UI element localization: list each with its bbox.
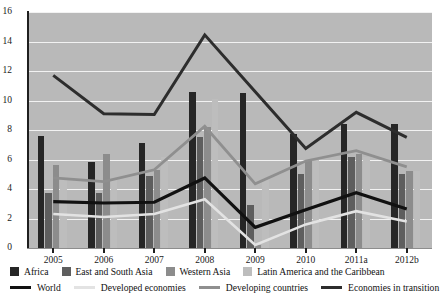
y-axis-tick-label: 4: [0, 189, 12, 199]
y-axis-tick-label: 2: [0, 219, 12, 229]
x-axis-tick-mark: [204, 248, 206, 253]
line-economies-in-transition: [53, 35, 407, 149]
x-axis-tick-label-2008: 2008: [180, 255, 230, 265]
legend-item-economies-in-transition[interactable]: Economies in transition: [321, 282, 439, 293]
x-axis-tick-mark: [103, 248, 105, 253]
legend-square-icon: [243, 267, 252, 276]
line-world: [53, 178, 407, 227]
x-axis-tick-label-2005: 2005: [28, 255, 78, 265]
legend-item-label: Economies in transition: [348, 282, 439, 293]
legend-row-lines: WorldDeveloped economiesDeveloping count…: [10, 282, 446, 293]
x-axis-tick-mark: [52, 248, 54, 253]
x-axis-tick-mark: [153, 248, 155, 253]
x-axis-tick-label-2012b: 2012b: [382, 255, 432, 265]
y-axis-tick-label: 16: [0, 12, 12, 22]
legend-square-icon: [10, 267, 19, 276]
legend-item-world[interactable]: World: [10, 282, 61, 293]
x-axis-tick-label-2010: 2010: [281, 255, 331, 265]
y-axis-line: [27, 11, 29, 249]
lines-layer: [28, 12, 432, 248]
legend-item-label: Western Asia: [180, 266, 231, 277]
legend-item-label: Developing countries: [226, 282, 308, 293]
chart-root: 0246810121416 20052006200720082009201020…: [0, 0, 446, 300]
legend-item-western-asia[interactable]: Western Asia: [166, 266, 231, 277]
legend-item-label: World: [37, 282, 61, 293]
legend-item-label: East and South Asia: [76, 266, 153, 277]
legend-square-icon: [62, 267, 71, 276]
y-axis-tick-label: 6: [0, 160, 12, 170]
legend-item-label: Africa: [24, 266, 49, 277]
x-axis-tick-label-2006: 2006: [79, 255, 129, 265]
line-developed-economies: [53, 199, 407, 245]
x-axis-tick-mark: [406, 248, 408, 253]
y-axis-tick-label: 10: [0, 101, 12, 111]
y-axis-tick-label: 8: [0, 130, 12, 140]
x-axis-line: [27, 248, 432, 249]
legend-item-developed-economies[interactable]: Developed economies: [74, 282, 186, 293]
legend-square-icon: [166, 267, 175, 276]
legend-item-developing-countries[interactable]: Developing countries: [199, 282, 308, 293]
y-axis-tick-label: 0: [0, 248, 12, 258]
y-axis-tick-label: 14: [0, 42, 12, 52]
line-developing-countries: [53, 126, 407, 184]
x-axis-tick-mark: [355, 248, 357, 253]
x-axis-tick-mark: [254, 248, 256, 253]
x-axis-tick-mark: [305, 248, 307, 253]
x-axis-tick-label-2007: 2007: [129, 255, 179, 265]
legend-line-icon: [74, 286, 95, 289]
x-axis-tick-label-2011a: 2011a: [331, 255, 381, 265]
legend-item-label: Developed economies: [101, 282, 186, 293]
legend-line-icon: [199, 286, 220, 289]
legend-item-east-and-south-asia[interactable]: East and South Asia: [62, 266, 153, 277]
x-axis-tick-label-2009: 2009: [230, 255, 280, 265]
plot-area: [28, 12, 432, 248]
legend-row-bars: AfricaEast and South AsiaWestern AsiaLat…: [10, 266, 398, 277]
y-axis-tick-label: 12: [0, 71, 12, 81]
legend-line-icon: [10, 286, 31, 289]
legend-item-label: Latin America and the Caribbean: [257, 266, 384, 277]
legend-item-latin-america-and-the-caribbean[interactable]: Latin America and the Caribbean: [243, 266, 384, 277]
legend-item-africa[interactable]: Africa: [10, 266, 49, 277]
legend-line-icon: [321, 286, 342, 289]
